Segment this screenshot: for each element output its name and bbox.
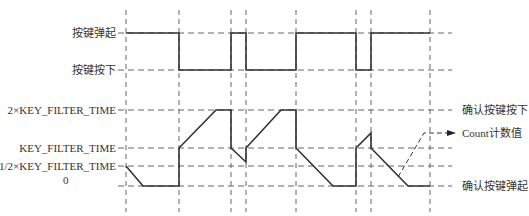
label-key-up: 按键弹起 (72, 27, 116, 39)
key-signal-waveform (126, 33, 430, 70)
label-count-value: Count计数值 (462, 127, 522, 139)
label-2x-key-filter-time: 2×KEY_FILTER_TIME (8, 104, 116, 116)
label-key-filter-time: KEY_FILTER_TIME (19, 142, 116, 154)
label-confirm-key-up: 确认按键弹起 (462, 180, 528, 192)
label-half-key-filter-time: 1/2×KEY_FILTER_TIME (0, 160, 116, 172)
count-pointer-line (398, 133, 449, 177)
label-confirm-key-down: 确认按键按下 (462, 104, 528, 116)
label-zero: 0 (63, 174, 69, 186)
time-marker-lines (126, 10, 430, 212)
label-key-down: 按键按下 (72, 64, 116, 76)
arrow-head-icon (447, 130, 456, 136)
count-pointer-arrow (398, 130, 456, 177)
